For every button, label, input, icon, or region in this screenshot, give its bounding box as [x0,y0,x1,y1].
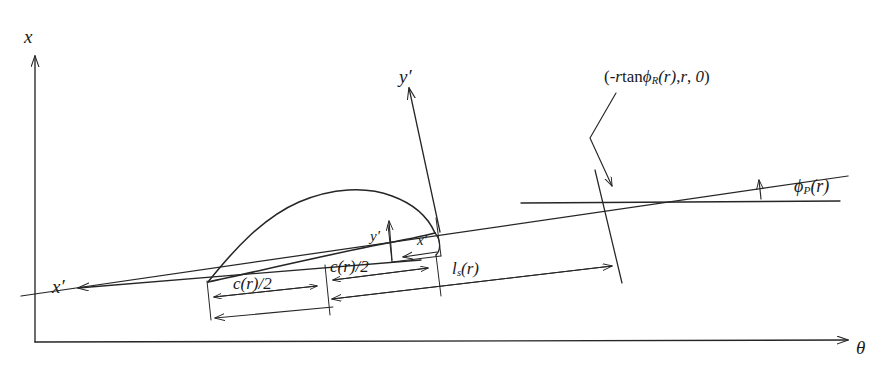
left-return-arrow [215,307,333,318]
local-x-prime-label: x′ [417,233,427,248]
leftmost-dimension-return [215,307,333,318]
blade-axis-group [78,88,440,288]
pitch-angle-label: ϕP(r) [794,177,829,196]
pitch-line [21,176,848,296]
blade-geometry-figure: x θ y′ x′ y′ x′ (-rtanϕR(r),r, 0) c(r)/2… [0,0,886,375]
coord-tan: tan [622,67,643,86]
diagram-canvas [0,0,886,375]
coord-comma-2: , [687,67,691,86]
global-axis-group [35,56,848,342]
ls-argument: (r) [461,259,479,278]
x-axis-label: x [24,27,32,46]
y-prime-axis-label: y′ [399,67,412,86]
theta-axis-line [35,340,848,342]
coord-arg-1: (r) [658,67,676,86]
coord-prefix: (- [604,67,615,86]
stacking-length-label: ls(r) [452,260,479,278]
coordinate-leader [590,93,616,186]
point-coordinate-label: (-rtanϕR(r),r, 0) [604,68,710,86]
phi-p-argument: (r) [810,176,829,196]
local-y-prime-label: y′ [370,229,380,244]
coord-phi: ϕ [643,67,652,86]
coordinate-leader-line [590,93,616,186]
coord-suffix: ) [704,67,710,86]
local-origin-box-bottom [392,256,441,262]
ext-line-leading-edge [207,281,211,320]
coord-radius-1: r [615,67,622,86]
theta-axis-label: θ [856,338,865,357]
local-x-prime-arrow [403,252,437,257]
coord-zero: 0 [696,67,705,86]
x-prime-axis-label: x′ [52,277,65,296]
phi-p-symbol: ϕ [794,176,803,196]
local-axis-group [388,218,441,262]
horizontal-reference-line [521,201,840,203]
y-prime-axis-line [409,88,440,232]
ext-line-trailing-edge [436,255,441,296]
chord-half-second-label: c(r)/2 [330,258,369,275]
chord-half-first-label: c(r)/2 [233,275,272,292]
